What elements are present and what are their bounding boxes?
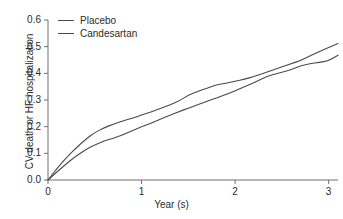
legend-item-placebo: Placebo: [58, 14, 137, 27]
series-line-candesartan: [48, 55, 338, 180]
x-axis-title: Year (s): [0, 199, 343, 210]
legend-label-placebo: Placebo: [80, 15, 116, 26]
y-axis-ticks: [44, 20, 48, 180]
legend-item-candesartan: Candesartan: [58, 27, 137, 40]
x-axis-ticks: [48, 180, 329, 184]
legend-label-candesartan: Candesartan: [80, 28, 137, 39]
legend-line-icon-candesartan: [58, 33, 74, 34]
line-chart: 0.00.10.20.30.40.50.6 0123 CV death or H…: [0, 0, 343, 219]
chart-legend: Placebo Candesartan: [58, 14, 137, 40]
x-axis-tick-label: 1: [134, 187, 150, 197]
legend-line-icon-placebo: [58, 20, 74, 21]
x-axis-tick-label: 0: [40, 187, 56, 197]
y-axis-title: CV death or HF hospitalization: [24, 17, 35, 187]
x-axis-tick-label: 3: [321, 187, 337, 197]
series-line-placebo: [48, 43, 338, 180]
x-axis-tick-label: 2: [227, 187, 243, 197]
